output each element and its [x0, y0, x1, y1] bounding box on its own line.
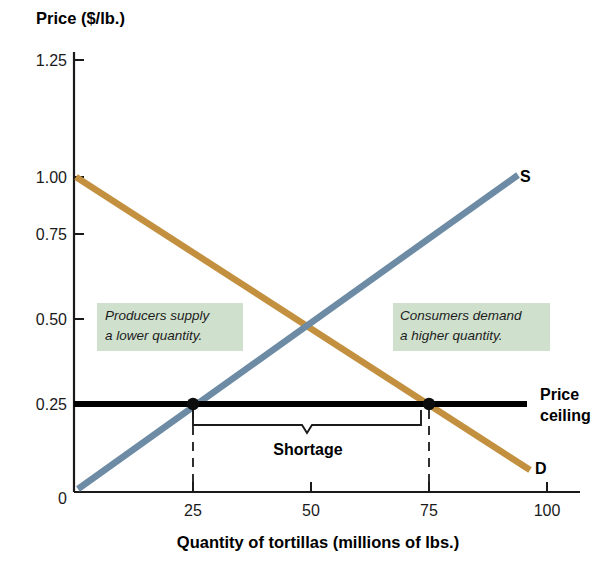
- x-axis-title: Quantity of tortillas (millions of lbs.): [177, 533, 459, 551]
- x-tick-label-75: 75: [420, 502, 438, 519]
- demand-curve-label: D: [535, 460, 547, 477]
- shortage-label: Shortage: [273, 441, 342, 458]
- consumers-callout-line1: Consumers demand: [400, 308, 522, 323]
- supply-demand-chart: Price ($/lb.) 1.25 1.00 0.75 0.50 0.25 0…: [0, 0, 607, 567]
- consumers-callout-line2: a higher quantity.: [400, 328, 503, 343]
- x-tick-label-50: 50: [302, 502, 320, 519]
- producers-callout-line2: a lower quantity.: [105, 328, 202, 343]
- y-tick-label-125: 1.25: [36, 52, 67, 69]
- chart-canvas: Price ($/lb.) 1.25 1.00 0.75 0.50 0.25 0…: [0, 0, 607, 567]
- y-tick-label-0: 0: [58, 490, 67, 507]
- y-tick-label-050: 0.50: [36, 311, 67, 328]
- y-axis-title: Price ($/lb.): [36, 9, 125, 27]
- supply-curve-label: S: [520, 168, 531, 185]
- producers-callout-line1: Producers supply: [105, 308, 211, 323]
- price-ceiling-label-line1: Price: [540, 386, 579, 403]
- quantity-demanded-point: [423, 398, 435, 410]
- x-tick-label-100: 100: [534, 502, 561, 519]
- y-tick-label-025: 0.25: [36, 396, 67, 413]
- price-ceiling-label-line2: ceiling: [540, 407, 591, 424]
- y-tick-label-075: 0.75: [36, 226, 67, 243]
- shortage-bracket: [193, 410, 421, 433]
- quantity-supplied-point: [187, 398, 199, 410]
- x-tick-label-25: 25: [184, 502, 202, 519]
- y-tick-label-100: 1.00: [36, 169, 67, 186]
